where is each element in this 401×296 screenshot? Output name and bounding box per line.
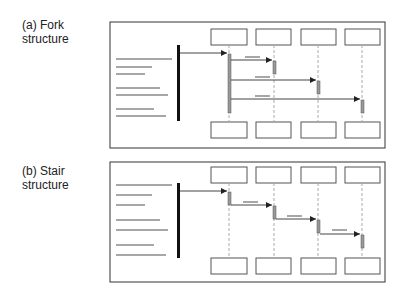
stair-diagram — [110, 162, 385, 282]
sequence-diagrams — [0, 0, 401, 296]
fork-diagram — [110, 22, 385, 148]
